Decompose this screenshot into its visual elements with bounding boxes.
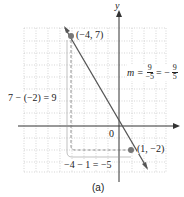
slope-formula: m = 9−5 = − 95: [127, 64, 178, 81]
figure-caption: (a): [92, 182, 104, 193]
point-1-neg2: [128, 147, 134, 153]
run-label: −4 − 1 = −5: [64, 160, 112, 170]
x-axis-arrow-icon: [173, 123, 180, 129]
rise-label: 7 − (−2) = 9: [8, 93, 57, 103]
y-axis-label: y: [115, 1, 119, 11]
point-label-2: (1, −2): [137, 144, 164, 154]
point-neg4-7: [68, 33, 74, 39]
origin-label: 0: [109, 129, 114, 139]
line-arrow-top-icon: [64, 26, 70, 33]
rise-run-bracket: [71, 40, 131, 150]
y-axis-arrow-icon: [116, 10, 122, 17]
rise-bracket-outer: [67, 40, 131, 157]
point-label-1: (−4, 7): [76, 30, 103, 40]
line-arrow-icon: [142, 162, 148, 170]
graph-line: [65, 28, 147, 168]
